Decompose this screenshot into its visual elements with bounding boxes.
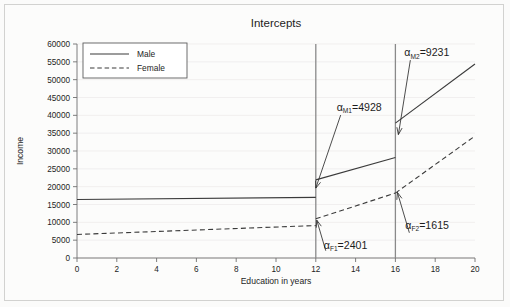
x-tick-label: 8 <box>234 265 239 274</box>
y-axis-title: Income <box>15 137 25 165</box>
x-tick-label: 0 <box>75 265 80 274</box>
series-female-segment-2 <box>395 136 475 193</box>
x-tick-label: 2 <box>115 265 120 274</box>
figure-frame: 0500010000150002000025000300003500040000… <box>4 4 504 301</box>
x-tick-label: 6 <box>194 265 199 274</box>
chart-screenshot: 0500010000150002000025000300003500040000… <box>0 0 510 307</box>
alpha-m1-text: αM1=4928 <box>337 101 382 114</box>
legend-box <box>83 43 187 78</box>
series-male-segment-0 <box>77 197 316 199</box>
y-tick-label: 40000 <box>47 111 70 120</box>
y-tick-label: 45000 <box>47 94 70 103</box>
y-tick-group: 0500010000150002000025000300003500040000… <box>47 40 77 263</box>
alpha-f1-label: αF1=2401 <box>324 239 368 252</box>
alpha-f1-value: =2401 <box>338 239 368 251</box>
y-tick-label: 20000 <box>47 183 70 192</box>
x-tick-label: 14 <box>351 265 361 274</box>
alpha-m1-label: αM1=4928 <box>337 101 382 114</box>
alpha-m1-value: =4928 <box>352 101 382 113</box>
series-female-segment-1 <box>316 193 396 219</box>
y-tick-label: 60000 <box>47 40 70 49</box>
y-tick-label: 10000 <box>47 218 70 227</box>
x-tick-label: 18 <box>431 265 441 274</box>
x-tick-group: 02468101214161820 <box>75 258 480 274</box>
intercepts-chart: 0500010000150002000025000300003500040000… <box>5 5 505 302</box>
y-tick-label: 25000 <box>47 165 70 174</box>
y-tick-label: 0 <box>65 254 70 263</box>
legend-label-female: Female <box>137 63 165 73</box>
annotation-group: αM1=4928αM2=9231αF1=2401αF2=1615 <box>316 46 450 252</box>
legend-label-male: Male <box>137 49 155 59</box>
y-tick-label: 15000 <box>47 201 70 210</box>
alpha-m2-text: αM2=9231 <box>404 46 449 59</box>
x-tick-label: 4 <box>154 265 159 274</box>
alpha-m1-subscript: M1 <box>343 107 352 114</box>
x-tick-label: 20 <box>470 265 480 274</box>
alpha-f2-text: αF2=1615 <box>405 219 449 232</box>
series-male-segment-2 <box>395 64 475 123</box>
y-tick-label: 5000 <box>52 236 71 245</box>
chart-title: Intercepts <box>251 17 302 29</box>
x-tick-label: 10 <box>271 265 281 274</box>
data-series-group <box>77 64 475 234</box>
x-axis-title: Education in years <box>241 276 312 286</box>
alpha-f2-value: =1615 <box>419 219 449 231</box>
y-tick-label: 30000 <box>47 147 70 156</box>
series-female-segment-0 <box>77 226 316 235</box>
y-tick-label: 50000 <box>47 76 70 85</box>
x-tick-label: 16 <box>391 265 401 274</box>
alpha-m2-value: =9231 <box>420 46 450 58</box>
alpha-f2-label: αF2=1615 <box>405 219 449 232</box>
x-tick-label: 12 <box>311 265 321 274</box>
y-tick-label: 35000 <box>47 129 70 138</box>
chart-legend[interactable]: Male Female <box>83 43 187 78</box>
alpha-f1-text: αF1=2401 <box>324 239 368 252</box>
alpha-m2-label: αM2=9231 <box>404 46 449 59</box>
alpha-m1-leader-line <box>316 115 341 188</box>
y-tick-label: 55000 <box>47 58 70 67</box>
alpha-m2-subscript: M2 <box>410 53 419 60</box>
